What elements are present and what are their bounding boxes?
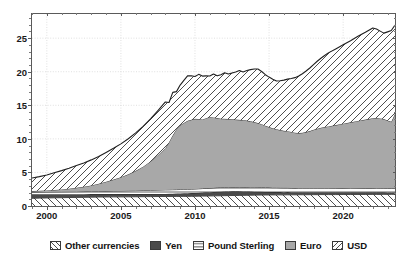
x-minor-tick-top <box>299 13 300 15</box>
y-tick-mark-right <box>393 38 396 39</box>
y-minor-tick-right <box>394 159 396 160</box>
x-minor-tick-top <box>32 13 33 15</box>
legend-item-other-currencies[interactable]: Other currencies <box>50 240 139 251</box>
legend-item-euro[interactable]: Euro <box>285 240 321 251</box>
y-minor-tick-right <box>394 18 396 19</box>
x-minor-tick <box>180 207 181 209</box>
y-minor-tick-right <box>394 179 396 180</box>
x-minor-tick <box>210 207 211 209</box>
y-axis: 0510152025 <box>0 0 31 273</box>
x-tick-label: 2000 <box>36 210 57 221</box>
legend-item-usd[interactable]: USD <box>332 240 367 251</box>
y-tick-label: 15 <box>16 100 27 111</box>
y-minor-tick-right <box>394 186 396 187</box>
x-minor-tick-top <box>254 13 255 15</box>
x-minor-tick-top <box>314 13 315 15</box>
x-minor-tick <box>299 207 300 209</box>
x-minor-tick <box>76 207 77 209</box>
y-minor-tick-right <box>394 193 396 194</box>
x-tick-mark-top <box>121 13 122 16</box>
y-minor-tick-right <box>394 152 396 153</box>
x-minor-tick <box>358 207 359 209</box>
x-tick-label: 2015 <box>258 210 279 221</box>
x-minor-tick-top <box>62 13 63 15</box>
y-minor-tick-right <box>394 58 396 59</box>
legend-item-pound-sterling[interactable]: Pound Sterling <box>193 240 274 251</box>
y-tick-label: 10 <box>16 133 27 144</box>
area-bands <box>32 25 395 206</box>
x-minor-tick-top <box>373 13 374 15</box>
y-minor-tick-right <box>394 25 396 26</box>
y-tick-mark-right <box>393 206 396 207</box>
y-minor-tick-right <box>394 199 396 200</box>
legend-label: Other currencies <box>65 240 139 251</box>
y-minor-tick-right <box>394 125 396 126</box>
x-tick-label: 2010 <box>184 210 205 221</box>
x-minor-tick <box>254 207 255 209</box>
y-minor-tick-right <box>394 132 396 133</box>
x-minor-tick-top <box>284 13 285 15</box>
x-minor-tick-top <box>358 13 359 15</box>
y-minor-tick-right <box>394 146 396 147</box>
x-minor-tick-top <box>239 13 240 15</box>
x-minor-tick <box>225 207 226 209</box>
x-tick-mark-top <box>343 13 344 16</box>
x-minor-tick <box>314 207 315 209</box>
y-minor-tick-right <box>394 52 396 53</box>
legend-swatch-hatch-backslash <box>50 241 61 250</box>
x-minor-tick <box>328 207 329 209</box>
y-minor-tick-right <box>394 92 396 93</box>
legend-swatch-solid-gray <box>285 241 296 250</box>
x-minor-tick <box>165 207 166 209</box>
x-minor-tick-top <box>106 13 107 15</box>
x-tick-mark <box>195 207 196 210</box>
y-minor-tick-right <box>394 112 396 113</box>
x-minor-tick-top <box>91 13 92 15</box>
legend-label: Euro <box>300 240 321 251</box>
y-minor-tick-right <box>394 85 396 86</box>
y-minor-tick-right <box>394 166 396 167</box>
legend-label: Pound Sterling <box>208 240 274 251</box>
y-tick-label: 0 <box>22 201 27 212</box>
y-minor-tick-right <box>394 45 396 46</box>
y-tick-mark-right <box>393 105 396 106</box>
legend-swatch-hatch-forward <box>332 241 343 250</box>
legend-item-yen[interactable]: Yen <box>150 240 182 251</box>
x-minor-tick-top <box>388 13 389 15</box>
x-minor-tick <box>106 207 107 209</box>
x-tick-label: 2005 <box>110 210 131 221</box>
x-minor-tick-top <box>180 13 181 15</box>
y-minor-tick-right <box>394 31 396 32</box>
y-minor-tick-right <box>394 99 396 100</box>
y-minor-tick-right <box>394 119 396 120</box>
x-minor-tick-top <box>136 13 137 15</box>
legend-swatch-solid-dark <box>150 241 161 250</box>
chart-root: 0510152025 200020052010201 <box>0 0 417 273</box>
legend-label: USD <box>347 240 367 251</box>
y-tick-label: 5 <box>22 167 27 178</box>
y-minor-tick-right <box>394 78 396 79</box>
x-minor-tick <box>62 207 63 209</box>
x-tick-mark <box>269 207 270 210</box>
x-tick-mark <box>121 207 122 210</box>
y-tick-mark-right <box>393 139 396 140</box>
x-minor-tick <box>373 207 374 209</box>
x-tick-mark-top <box>195 13 196 16</box>
x-minor-tick <box>32 207 33 209</box>
y-minor-tick-right <box>394 65 396 66</box>
x-minor-tick <box>91 207 92 209</box>
x-tick-mark-top <box>269 13 270 16</box>
legend-swatch-horizontal-lines <box>193 241 204 250</box>
x-minor-tick-top <box>151 13 152 15</box>
stacked-area-svg <box>32 14 395 206</box>
x-minor-tick <box>239 207 240 209</box>
x-minor-tick <box>136 207 137 209</box>
x-minor-tick <box>284 207 285 209</box>
chart-legend: Other currenciesYenPound SterlingEuroUSD <box>0 240 417 251</box>
x-minor-tick-top <box>76 13 77 15</box>
x-tick-mark <box>47 207 48 210</box>
x-tick-mark-top <box>47 13 48 16</box>
plot-area <box>31 13 396 207</box>
x-minor-tick <box>388 207 389 209</box>
y-tick-label: 20 <box>16 66 27 77</box>
